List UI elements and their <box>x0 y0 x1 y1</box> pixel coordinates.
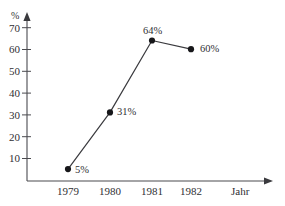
y-tick-label-20: 20 <box>0 132 20 143</box>
y-tick-label-50: 50 <box>0 66 20 77</box>
x-axis-arrowhead <box>264 178 273 185</box>
x-tick-label-1980: 1980 <box>93 186 127 197</box>
x-tick-label-1979: 1979 <box>51 186 85 197</box>
x-tick-label-1982: 1982 <box>174 186 208 197</box>
data-point-1982[interactable] <box>188 46 194 52</box>
y-tick-label-30: 30 <box>0 110 20 121</box>
data-label-1982: 60% <box>200 44 219 55</box>
data-line <box>68 41 191 170</box>
x-tick-label-1981: 1981 <box>135 186 169 197</box>
y-tick-label-40: 40 <box>0 88 20 99</box>
data-point-1980[interactable] <box>107 109 113 115</box>
data-label-1980: 31% <box>117 107 136 118</box>
y-tick-label-60: 60 <box>0 44 20 55</box>
chart-figure: · · · · · · · · · · % 70 60 50 40 30 <box>0 0 285 206</box>
data-label-1981: 64% <box>143 26 162 37</box>
y-axis-arrowhead <box>23 12 30 21</box>
data-point-1979[interactable] <box>65 166 71 172</box>
data-label-1979: 5% <box>75 165 89 176</box>
x-axis-label: Jahr <box>231 186 249 197</box>
y-tick-label-10: 10 <box>0 153 20 164</box>
y-axis-unit-label: % <box>11 11 19 21</box>
y-tick-label-70: 70 <box>0 23 20 34</box>
data-point-1981[interactable] <box>149 37 155 43</box>
